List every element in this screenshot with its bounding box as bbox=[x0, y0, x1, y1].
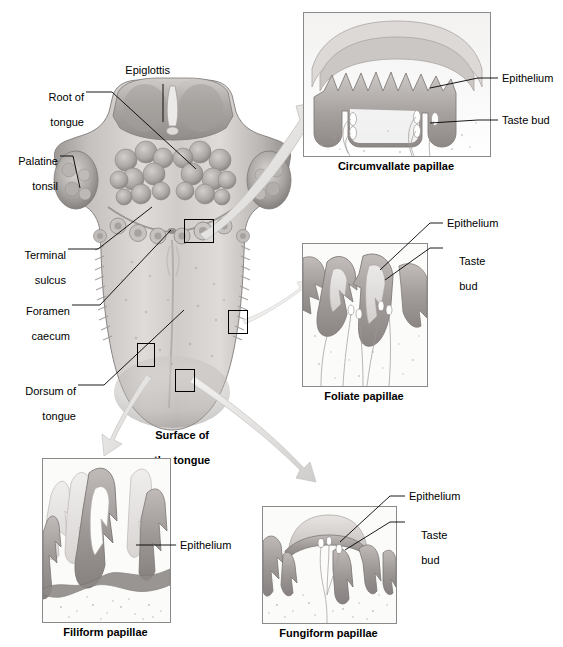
callout-fungiform-taste-bud: Taste bud bbox=[409, 516, 447, 579]
callout-fungiform-epithelium: Epithelium bbox=[409, 490, 460, 503]
fungiform-callout-lines bbox=[0, 0, 563, 647]
caption-fungiform: Fungiform papillae bbox=[255, 627, 402, 639]
figure-canvas: Epiglottis Root of tongue Palatine tonsi… bbox=[0, 0, 563, 647]
